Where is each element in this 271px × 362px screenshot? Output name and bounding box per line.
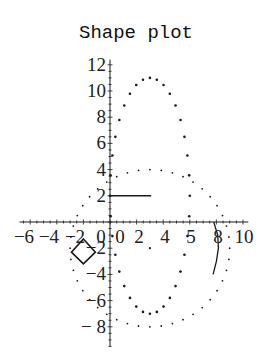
x-tick-label: 4: [160, 226, 170, 247]
series-center-point: [149, 247, 151, 249]
y-tick-label: 12: [87, 54, 106, 75]
y-tick-label: 8: [97, 106, 107, 127]
y-tick-label: 4: [97, 159, 107, 180]
x-tick-label: 0: [115, 226, 125, 247]
y-tick-labels: 12108642−2−4−6− 8: [81, 54, 106, 337]
x-tick-label: −4: [39, 226, 60, 247]
y-tick-label: −2: [86, 237, 106, 258]
chart-title: Shape plot: [79, 22, 193, 44]
y-tick-label: −4: [86, 263, 107, 284]
x-tick-label: 2: [134, 226, 144, 247]
y-axis: [108, 60, 113, 347]
y-tick-label: − 8: [81, 316, 106, 337]
y-tick-label: 6: [97, 132, 107, 153]
shape-plot-chart: Shape plot −6−4−200245810 12108642−2−4−6…: [0, 0, 271, 362]
x-tick-label: −6: [14, 226, 34, 247]
x-tick-label: −2: [65, 226, 85, 247]
y-tick-label: 10: [87, 80, 106, 101]
x-tick-label: 10: [235, 226, 254, 247]
